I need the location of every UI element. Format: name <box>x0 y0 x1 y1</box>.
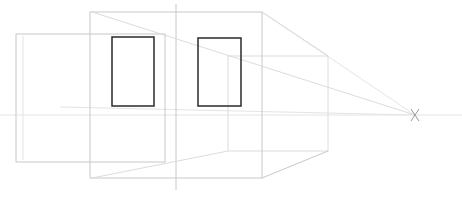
back-face-rect <box>228 56 328 151</box>
horizon-line-secondary <box>60 107 415 115</box>
perspective-drawing-canvas <box>0 0 462 199</box>
window-left <box>112 37 154 106</box>
receding-edge-bottom <box>262 151 328 178</box>
vanishing-line-top <box>92 12 415 115</box>
vanishing-line-right-top <box>262 12 415 115</box>
vanishing-line-bottom <box>92 151 228 178</box>
